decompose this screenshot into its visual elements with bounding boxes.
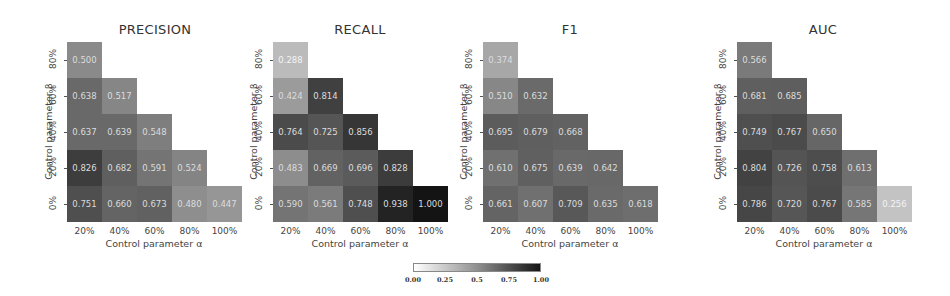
heatmap-cell: 0.374 <box>483 42 518 78</box>
x-tick-label: 20% <box>744 226 764 236</box>
heatmap-cell: 0.517 <box>102 78 137 114</box>
heatmap-cell: 0.725 <box>308 114 343 150</box>
chart-title-f1: F1 <box>562 22 578 37</box>
y-tick-mark <box>734 168 737 169</box>
y-axis-label: Control parameter β <box>458 72 469 192</box>
x-axis-label: Control parameter α <box>312 238 409 249</box>
colorbar-tick-label: 0.00 <box>405 276 421 284</box>
heatmap-cell: 0.669 <box>308 150 343 186</box>
heatmap-cell: 0.548 <box>137 114 172 150</box>
y-tick-mark <box>64 132 67 133</box>
y-tick-mark <box>480 96 483 97</box>
heatmap-cell: 0.681 <box>737 78 772 114</box>
y-tick-label: 0% <box>718 188 728 218</box>
heatmap-cell: 0.635 <box>588 186 623 222</box>
y-tick-label: 80% <box>254 44 264 74</box>
y-tick-label: 0% <box>254 188 264 218</box>
heatmap-cell: 0.483 <box>273 150 308 186</box>
heatmap-cell: 0.591 <box>137 150 172 186</box>
y-tick-mark <box>270 168 273 169</box>
heatmap-cell: 0.638 <box>67 78 102 114</box>
y-tick-mark <box>64 96 67 97</box>
y-tick-mark <box>480 132 483 133</box>
heatmap-cell: 0.696 <box>343 150 378 186</box>
y-tick-mark <box>480 168 483 169</box>
heatmap-cell: 0.938 <box>378 186 413 222</box>
heatmap-cell: 0.685 <box>772 78 807 114</box>
x-tick-label: 100% <box>418 226 444 236</box>
heatmap-cell: 0.814 <box>308 78 343 114</box>
x-tick-label: 60% <box>144 226 164 236</box>
x-tick-label: 40% <box>779 226 799 236</box>
x-tick-label: 80% <box>179 226 199 236</box>
x-tick-label: 20% <box>280 226 300 236</box>
heatmap-cell: 0.695 <box>483 114 518 150</box>
heatmap-cell: 0.804 <box>737 150 772 186</box>
colorbar-tick-label: 0.75 <box>501 276 517 284</box>
x-tick-label: 100% <box>212 226 238 236</box>
colorbar-tick-label: 0.5 <box>471 276 482 284</box>
x-tick-label: 60% <box>350 226 370 236</box>
heatmap-cell: 0.668 <box>553 114 588 150</box>
heatmap-cell: 0.566 <box>737 42 772 78</box>
heatmap-cell: 0.682 <box>102 150 137 186</box>
y-tick-mark <box>64 168 67 169</box>
x-tick-label: 100% <box>628 226 654 236</box>
heatmap-cell: 0.675 <box>518 150 553 186</box>
x-tick-label: 80% <box>385 226 405 236</box>
heatmap-cell: 0.618 <box>623 186 658 222</box>
colorbar-tick-label: 0.25 <box>437 276 453 284</box>
heatmap-cell: 0.660 <box>102 186 137 222</box>
heatmap-cell: 0.767 <box>807 186 842 222</box>
heatmap-cell: 0.661 <box>483 186 518 222</box>
heatmap-cell: 0.480 <box>172 186 207 222</box>
heatmap-cell: 0.673 <box>137 186 172 222</box>
heatmap-cell: 0.447 <box>207 186 242 222</box>
x-tick-label: 60% <box>560 226 580 236</box>
heatmap-cell: 0.613 <box>842 150 877 186</box>
heatmap-cell: 0.764 <box>273 114 308 150</box>
heatmap-cell: 0.585 <box>842 186 877 222</box>
y-tick-mark <box>64 60 67 61</box>
heatmap-cell: 0.749 <box>737 114 772 150</box>
y-tick-label: 80% <box>48 44 58 74</box>
x-tick-label: 20% <box>490 226 510 236</box>
y-tick-mark <box>734 96 737 97</box>
heatmap-cell: 0.510 <box>483 78 518 114</box>
x-axis-label: Control parameter α <box>522 238 619 249</box>
x-axis-label: Control parameter α <box>776 238 873 249</box>
heatmap-cell: 0.256 <box>877 186 912 222</box>
x-tick-label: 80% <box>849 226 869 236</box>
x-tick-label: 80% <box>595 226 615 236</box>
y-tick-mark <box>270 60 273 61</box>
heatmap-cell: 0.650 <box>807 114 842 150</box>
y-tick-mark <box>64 204 67 205</box>
heatmap-cell: 0.720 <box>772 186 807 222</box>
heatmap-cell: 0.639 <box>102 114 137 150</box>
colorbar-tick-label: 1.00 <box>533 276 549 284</box>
y-tick-label: 80% <box>718 44 728 74</box>
heatmap-cell: 0.748 <box>343 186 378 222</box>
y-axis-label: Control parameter β <box>43 72 54 192</box>
y-tick-mark <box>270 96 273 97</box>
y-tick-mark <box>734 132 737 133</box>
heatmap-cell: 0.500 <box>67 42 102 78</box>
heatmap-cell: 0.786 <box>737 186 772 222</box>
x-tick-label: 40% <box>109 226 129 236</box>
heatmap-cell: 0.828 <box>378 150 413 186</box>
y-tick-mark <box>480 204 483 205</box>
heatmap-cell: 0.709 <box>553 186 588 222</box>
x-axis-label: Control parameter α <box>106 238 203 249</box>
heatmap-cell: 0.856 <box>343 114 378 150</box>
heatmap-cell: 1.000 <box>413 186 448 222</box>
chart-title-recall: RECALL <box>334 22 386 37</box>
heatmap-cell: 0.637 <box>67 114 102 150</box>
heatmap-cell: 0.561 <box>308 186 343 222</box>
heatmap-cell: 0.758 <box>807 150 842 186</box>
heatmap-cell: 0.424 <box>273 78 308 114</box>
x-tick-label: 60% <box>814 226 834 236</box>
x-tick-label: 100% <box>882 226 908 236</box>
heatmap-cell: 0.632 <box>518 78 553 114</box>
heatmap-cell: 0.607 <box>518 186 553 222</box>
y-tick-mark <box>270 204 273 205</box>
